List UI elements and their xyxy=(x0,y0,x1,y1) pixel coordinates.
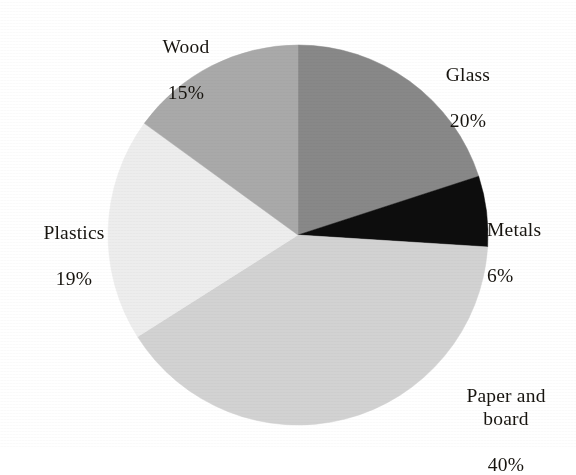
pie-label-glass-name: Glass xyxy=(408,63,528,86)
pie-label-metals: Metals 6% xyxy=(487,195,573,310)
pie-label-wood: Wood 15% xyxy=(128,12,244,127)
pie-label-glass-percent: 20% xyxy=(408,109,528,132)
pie-label-metals-name: Metals xyxy=(487,218,573,241)
pie-label-plastics-percent: 19% xyxy=(18,267,130,290)
pie-label-paper-and-board-percent: 40% xyxy=(438,453,574,475)
pie-label-wood-percent: 15% xyxy=(128,81,244,104)
pie-label-paper-and-board-name: Paper and board xyxy=(438,385,574,430)
pie-label-plastics: Plastics 19% xyxy=(18,198,130,313)
pie-label-glass: Glass 20% xyxy=(408,40,528,155)
pie-label-plastics-name: Plastics xyxy=(18,221,130,244)
pie-label-metals-percent: 6% xyxy=(487,264,573,287)
pie-label-wood-name: Wood xyxy=(128,35,244,58)
pie-label-paper-and-board: Paper and board 40% xyxy=(438,362,574,475)
